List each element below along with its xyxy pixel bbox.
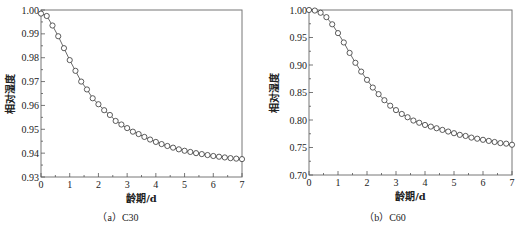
data-point-marker bbox=[353, 60, 358, 65]
data-point-marker bbox=[324, 15, 329, 20]
data-point-marker bbox=[318, 10, 323, 15]
data-point-marker bbox=[451, 131, 456, 136]
data-point-marker bbox=[96, 102, 101, 107]
x-tick-label: 7 bbox=[510, 177, 515, 188]
data-point-marker bbox=[504, 141, 509, 146]
data-point-marker bbox=[428, 124, 433, 129]
data-point-marker bbox=[306, 7, 311, 12]
data-point-marker bbox=[148, 137, 153, 142]
x-tick-label: 3 bbox=[125, 179, 130, 190]
x-tick-label: 2 bbox=[96, 179, 101, 190]
subplot-caption: （a）C30 bbox=[97, 212, 138, 223]
data-point-marker bbox=[211, 153, 216, 158]
y-tick-label: 0.75 bbox=[290, 142, 308, 153]
x-tick-label: 1 bbox=[336, 177, 341, 188]
data-point-marker bbox=[228, 156, 233, 161]
data-point-marker bbox=[67, 58, 72, 63]
data-point-marker bbox=[347, 50, 352, 55]
x-tick-label: 4 bbox=[423, 177, 428, 188]
data-point-marker bbox=[370, 85, 375, 90]
data-point-marker bbox=[446, 129, 451, 134]
y-tick-label: 0.85 bbox=[290, 87, 308, 98]
data-point-marker bbox=[107, 112, 112, 117]
data-point-marker bbox=[44, 13, 49, 18]
series-line bbox=[309, 10, 512, 145]
data-point-marker bbox=[393, 108, 398, 113]
data-point-marker bbox=[205, 152, 210, 157]
x-tick-label: 0 bbox=[39, 179, 44, 190]
data-point-marker bbox=[153, 139, 158, 144]
x-tick-label: 1 bbox=[67, 179, 72, 190]
x-axis-label: 龄期/d bbox=[126, 192, 157, 204]
data-point-marker bbox=[312, 8, 317, 13]
data-point-marker bbox=[159, 141, 164, 146]
data-point-marker bbox=[176, 147, 181, 152]
data-point-marker bbox=[492, 139, 497, 144]
data-point-marker bbox=[61, 46, 66, 51]
data-point-marker bbox=[56, 34, 61, 39]
plot-frame bbox=[41, 10, 242, 177]
y-tick-label: 1.00 bbox=[22, 5, 40, 16]
x-tick-label: 5 bbox=[452, 177, 457, 188]
figure: 012345670.930.940.950.960.970.980.991.00… bbox=[0, 0, 520, 233]
data-point-marker bbox=[388, 103, 393, 108]
data-point-marker bbox=[90, 96, 95, 101]
y-tick-label: 0.98 bbox=[22, 52, 40, 63]
data-point-marker bbox=[234, 156, 239, 161]
data-point-marker bbox=[73, 68, 78, 73]
x-tick-label: 7 bbox=[240, 179, 245, 190]
data-point-marker bbox=[84, 87, 89, 92]
data-point-marker bbox=[376, 92, 381, 97]
data-point-marker bbox=[475, 136, 480, 141]
plot-c60: 012345670.700.750.800.850.900.951.00龄期/d… bbox=[268, 5, 515, 224]
data-point-marker bbox=[399, 111, 404, 116]
plot-c30: 012345670.930.940.950.960.970.980.991.00… bbox=[4, 5, 245, 224]
data-point-marker bbox=[486, 138, 491, 143]
data-point-marker bbox=[170, 145, 175, 150]
y-tick-label: 0.70 bbox=[290, 170, 308, 181]
y-axis-label: 相对湿度 bbox=[4, 73, 16, 114]
data-point-marker bbox=[199, 151, 204, 156]
data-point-marker bbox=[364, 77, 369, 82]
y-tick-label: 0.93 bbox=[22, 172, 40, 183]
y-tick-label: 0.96 bbox=[22, 100, 40, 111]
x-tick-label: 5 bbox=[182, 179, 187, 190]
y-tick-label: 0.99 bbox=[22, 28, 40, 39]
data-point-marker bbox=[113, 118, 118, 123]
y-tick-label: 0.80 bbox=[290, 115, 308, 126]
data-point-marker bbox=[165, 143, 170, 148]
data-point-marker bbox=[457, 132, 462, 137]
data-point-marker bbox=[405, 115, 410, 120]
data-point-marker bbox=[136, 131, 141, 136]
data-point-marker bbox=[469, 135, 474, 140]
data-point-marker bbox=[434, 126, 439, 131]
data-point-marker bbox=[50, 23, 55, 28]
data-point-marker bbox=[359, 69, 364, 74]
data-point-marker bbox=[38, 11, 43, 16]
y-tick-label: 0.95 bbox=[22, 124, 40, 135]
y-tick-label: 0.97 bbox=[22, 76, 40, 87]
data-point-marker bbox=[330, 22, 335, 27]
y-tick-label: 0.90 bbox=[290, 60, 308, 71]
y-tick-label: 0.94 bbox=[22, 148, 40, 159]
data-point-marker bbox=[182, 148, 187, 153]
data-point-marker bbox=[411, 118, 416, 123]
data-point-marker bbox=[239, 157, 244, 162]
data-point-marker bbox=[417, 120, 422, 125]
data-point-marker bbox=[463, 133, 468, 138]
x-tick-label: 6 bbox=[211, 179, 216, 190]
data-point-marker bbox=[480, 137, 485, 142]
subplot-caption: （b）C60 bbox=[364, 212, 406, 223]
data-point-marker bbox=[382, 98, 387, 103]
data-point-marker bbox=[341, 40, 346, 45]
x-tick-label: 2 bbox=[365, 177, 370, 188]
y-tick-label: 1.00 bbox=[290, 5, 308, 16]
data-point-marker bbox=[193, 151, 198, 156]
data-point-marker bbox=[422, 122, 427, 127]
data-point-marker bbox=[509, 142, 514, 147]
data-point-marker bbox=[222, 155, 227, 160]
data-point-marker bbox=[498, 141, 503, 146]
x-tick-label: 3 bbox=[394, 177, 399, 188]
data-point-marker bbox=[119, 122, 124, 127]
y-axis-label: 相对湿度 bbox=[268, 72, 280, 113]
